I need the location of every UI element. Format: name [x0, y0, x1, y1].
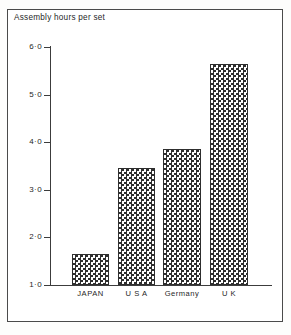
y-axis-tick-label-wrap: 1·0: [12, 280, 42, 290]
y-axis-tick-label: 5·0: [14, 90, 42, 99]
y-axis-tick-label: 1·0: [14, 280, 42, 289]
y-axis-tick-label-wrap: 3·0: [12, 185, 42, 195]
y-axis-tick: [44, 190, 51, 191]
y-axis-tick: [44, 47, 51, 48]
y-axis-tick-label: 4·0: [14, 137, 42, 146]
bar-u-k: [210, 64, 248, 285]
x-axis-category-label: U K: [196, 289, 262, 298]
y-axis-tick-label-wrap: 6·0: [12, 42, 42, 52]
y-axis-tick: [44, 95, 51, 96]
y-axis-tick-label: 2·0: [14, 232, 42, 241]
y-axis-tick: [44, 285, 51, 286]
y-axis-tick-label-wrap: 5·0: [12, 90, 42, 100]
plot-area: 6·05·04·03·02·01·0 JAPANU S AGermanyU K: [0, 0, 291, 335]
y-axis-tick-label-wrap: 4·0: [12, 137, 42, 147]
bar-germany: [163, 149, 201, 285]
y-axis-line: [50, 46, 51, 286]
x-axis-line: [50, 285, 272, 286]
y-axis-tick: [44, 142, 51, 143]
y-axis-tick-label-wrap: 2·0: [12, 232, 42, 242]
bar-japan: [72, 254, 109, 285]
bar-u-s-a: [118, 168, 155, 285]
y-axis-tick: [44, 237, 51, 238]
y-axis-tick-label: 3·0: [14, 185, 42, 194]
y-axis-tick-label: 6·0: [14, 42, 42, 51]
